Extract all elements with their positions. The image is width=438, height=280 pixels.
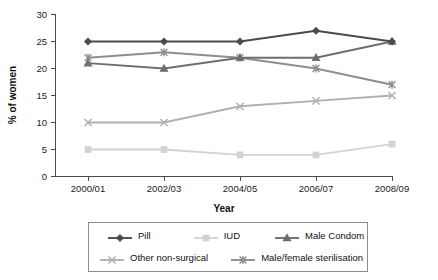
plot-area: 30 25 20 15 10 5 0 2000/01 2002/03 2004/… <box>0 0 438 218</box>
legend-marker-triangle-icon <box>274 230 300 242</box>
legend-label: Male/female sterilisation <box>261 253 363 263</box>
line-chart: 30 25 20 15 10 5 0 2000/01 2002/03 2004/… <box>0 0 438 280</box>
y-tick-label: 25 <box>36 36 47 47</box>
legend-item-male-condom[interactable]: Male Condom <box>274 230 364 242</box>
legend-row-1: Pill IUD Male Condom <box>93 225 363 247</box>
y-tick-label: 30 <box>36 9 47 20</box>
x-tick-label: 2006/07 <box>299 183 333 194</box>
legend-label: Other non-surgical <box>130 253 208 263</box>
legend-marker-asterisk-icon <box>230 252 256 264</box>
x-tick-label: 2008/09 <box>375 183 409 194</box>
legend-label: Male Condom <box>305 231 364 241</box>
y-axis-tick-labels: 30 25 20 15 10 5 0 <box>36 9 47 182</box>
x-axis-title: Year <box>213 203 234 214</box>
legend-marker-square-icon <box>193 230 219 242</box>
x-axis-ticks <box>89 177 393 182</box>
series-pill <box>85 28 395 45</box>
x-tick-label: 2004/05 <box>223 183 257 194</box>
legend-marker-cross-x-icon <box>99 252 125 264</box>
x-tick-label: 2002/03 <box>147 183 181 194</box>
series-iud <box>85 141 394 157</box>
chart-svg: 30 25 20 15 10 5 0 2000/01 2002/03 2004/… <box>0 0 438 218</box>
legend-row-2: Other non-surgical Male/female sterilisa… <box>93 247 363 269</box>
y-tick-label: 0 <box>42 171 47 182</box>
series-layer <box>84 28 395 158</box>
legend-item-pill[interactable]: Pill <box>107 230 151 242</box>
y-tick-label: 15 <box>36 90 47 101</box>
y-tick-label: 20 <box>36 63 47 74</box>
series-other-non-surgical <box>84 92 395 126</box>
legend-item-male-female-sterilisation[interactable]: Male/female sterilisation <box>230 252 363 264</box>
y-tick-label: 5 <box>42 144 47 155</box>
y-tick-label: 10 <box>36 117 47 128</box>
y-axis-title: % of women <box>7 66 18 124</box>
legend-label: Pill <box>138 231 151 241</box>
x-axis-tick-labels: 2000/01 2002/03 2004/05 2006/07 2008/09 <box>71 183 409 194</box>
y-axis-ticks <box>51 15 56 177</box>
chart-legend: Pill IUD Male Condom Other non-surgical <box>88 222 368 272</box>
x-tick-label: 2000/01 <box>71 183 105 194</box>
legend-label: IUD <box>224 231 240 241</box>
legend-marker-diamond-icon <box>107 230 133 242</box>
legend-item-other-non-surgical[interactable]: Other non-surgical <box>99 252 208 264</box>
legend-item-iud[interactable]: IUD <box>193 230 240 242</box>
